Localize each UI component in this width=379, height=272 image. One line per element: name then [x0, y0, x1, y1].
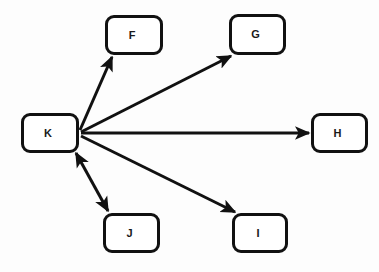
node-k[interactable]: K: [21, 113, 79, 153]
node-h[interactable]: H: [311, 113, 368, 153]
node-j[interactable]: J: [103, 213, 160, 253]
node-g-label: G: [251, 29, 260, 40]
edge-k-i: [81, 136, 235, 212]
edge-k-j: [76, 153, 108, 211]
diagram-canvas: K F G H I J: [0, 0, 379, 272]
node-i-label: I: [256, 228, 259, 239]
node-j-label: J: [126, 228, 132, 239]
node-i[interactable]: I: [232, 213, 288, 253]
node-f-label: F: [129, 30, 136, 41]
edge-group: [76, 56, 309, 212]
node-k-label: K: [44, 128, 52, 139]
edge-k-g: [81, 56, 231, 132]
node-f[interactable]: F: [105, 15, 163, 55]
node-g[interactable]: G: [229, 14, 286, 55]
node-h-label: H: [334, 128, 342, 139]
